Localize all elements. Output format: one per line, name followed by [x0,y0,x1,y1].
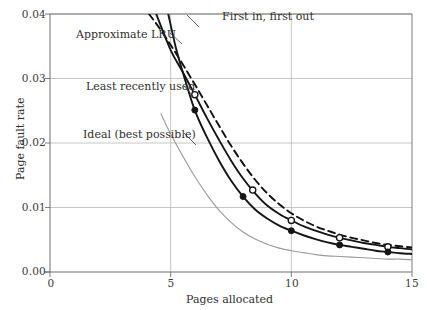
series-label-ideal: Ideal (best possible) [83,128,196,141]
x-tick-label-15: 15 [405,277,419,289]
data-point-marker-approximate-lru [288,217,294,223]
x-tick-label-10: 10 [285,277,299,289]
gridlines [50,14,412,272]
y-tick-label-0.04: 0.04 [8,8,46,20]
series-label-fifo: First in, first out [222,10,314,23]
axis-frame [44,14,412,277]
x-tick-label-0: 0 [48,277,55,289]
series-line-ideal-best-possible [161,114,412,260]
chart-plot-area [0,0,427,310]
data-point-marker-least-recently-used [288,228,294,234]
x-axis-title: Pages allocated [186,293,273,306]
leader-line [187,15,199,27]
y-tick-label-0.01: 0.01 [8,201,46,213]
data-point-marker-least-recently-used [337,242,343,248]
data-point-marker-approximate-lru [250,187,256,193]
series-label-approximate-lru: Approximate LRU [76,28,176,41]
data-point-marker-approximate-lru [337,235,343,241]
y-axis-title: Page fault rate [14,98,27,180]
y-tick-label-0.00: 0.00 [8,265,46,277]
y-tick-label-0.03: 0.03 [8,72,46,84]
x-tick-label-5: 5 [168,277,175,289]
data-point-marker-least-recently-used [385,249,391,255]
data-point-marker-least-recently-used [240,194,246,200]
page-fault-rate-chart: 0.04 0.03 0.02 0.01 0.00 0 5 10 15 Page … [0,0,427,310]
data-point-marker-least-recently-used [192,107,198,113]
series-label-least-recently-used: Least recently used [86,80,195,93]
